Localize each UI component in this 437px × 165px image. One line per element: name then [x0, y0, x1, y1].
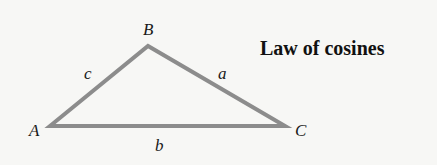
- side-label-b: b: [155, 137, 164, 154]
- side-label-c: c: [84, 65, 92, 82]
- side-label-a: a: [218, 65, 227, 82]
- triangle: [50, 46, 285, 126]
- vertex-label-c: C: [295, 122, 306, 139]
- vertex-label-b: B: [143, 21, 153, 38]
- diagram-title: Law of cosines: [260, 37, 384, 60]
- vertex-label-a: A: [29, 122, 39, 139]
